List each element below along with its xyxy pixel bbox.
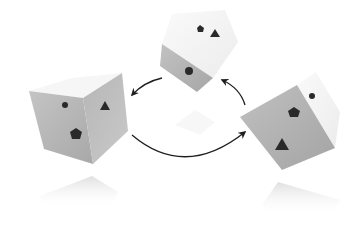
left-cube-left-face	[29, 91, 93, 164]
arrow-top-to-left	[132, 78, 162, 95]
top-cube-reflection	[175, 110, 215, 135]
left-cube-reflection	[40, 176, 118, 208]
dot-icon	[62, 102, 68, 108]
right-cube	[240, 72, 340, 170]
top-cube	[160, 10, 238, 92]
cube-rotation-diagram	[0, 0, 360, 225]
arrow-right-to-top	[222, 80, 245, 105]
dot-icon	[309, 93, 315, 99]
dot-icon	[185, 67, 193, 75]
right-cube-reflection	[262, 182, 340, 215]
left-cube	[29, 73, 128, 164]
arrow-left-to-right	[132, 132, 245, 157]
